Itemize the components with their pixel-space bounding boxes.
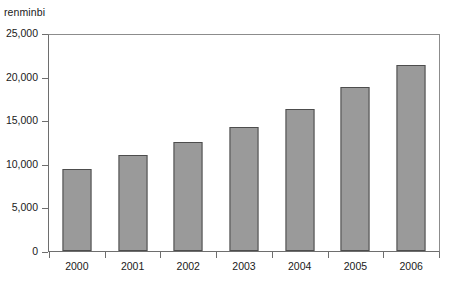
bar[interactable]	[118, 155, 147, 251]
y-axis-tick-mark	[42, 165, 48, 166]
bar-slot	[160, 34, 216, 251]
x-axis-tick-mark	[439, 252, 440, 258]
x-axis-tick-mark	[105, 252, 106, 258]
bar-slot	[272, 34, 328, 251]
y-axis-unit-caption: renminbi	[4, 6, 45, 18]
x-axis-tick-mark	[49, 252, 50, 258]
x-axis-tick-label: 2002	[177, 260, 200, 272]
x-axis-tick-label: 2000	[65, 260, 88, 272]
y-axis-tick-label: 25,000	[6, 27, 38, 39]
x-axis-tick-label: 2004	[288, 260, 311, 272]
bar-series	[49, 34, 439, 251]
bar-slot	[105, 34, 161, 251]
x-axis-tick-label: 2001	[121, 260, 144, 272]
bar-slot	[49, 34, 105, 251]
bar[interactable]	[62, 169, 91, 251]
bar[interactable]	[341, 87, 370, 251]
bar[interactable]	[285, 109, 314, 251]
bar-slot	[383, 34, 439, 251]
y-axis-tick-label: 5,000	[12, 201, 38, 213]
y-axis-tick-mark	[42, 252, 48, 253]
bar-chart: renminbi 05,00010,00015,00020,00025,000 …	[0, 0, 451, 284]
bar[interactable]	[397, 65, 426, 251]
bar-slot	[216, 34, 272, 251]
x-axis-tick-label: 2005	[344, 260, 367, 272]
x-axis-tick-mark	[328, 252, 329, 258]
y-axis-tick-mark	[42, 78, 48, 79]
x-axis-tick-mark	[383, 252, 384, 258]
x-axis-tick-mark	[272, 252, 273, 258]
bar[interactable]	[174, 142, 203, 251]
y-axis-tick-mark	[42, 121, 48, 122]
y-axis-tick-label: 15,000	[6, 114, 38, 126]
x-axis-tick-mark	[216, 252, 217, 258]
bar[interactable]	[229, 127, 258, 251]
bar-slot	[328, 34, 384, 251]
y-axis-tick-label: 0	[32, 245, 38, 257]
x-axis-tick-label: 2006	[399, 260, 422, 272]
y-axis-tick-label: 10,000	[6, 158, 38, 170]
x-axis-tick-label: 2003	[232, 260, 255, 272]
y-axis-tick-mark	[42, 34, 48, 35]
x-axis-tick-mark	[160, 252, 161, 258]
y-axis-tick-label: 20,000	[6, 71, 38, 83]
y-axis-tick-mark	[42, 208, 48, 209]
